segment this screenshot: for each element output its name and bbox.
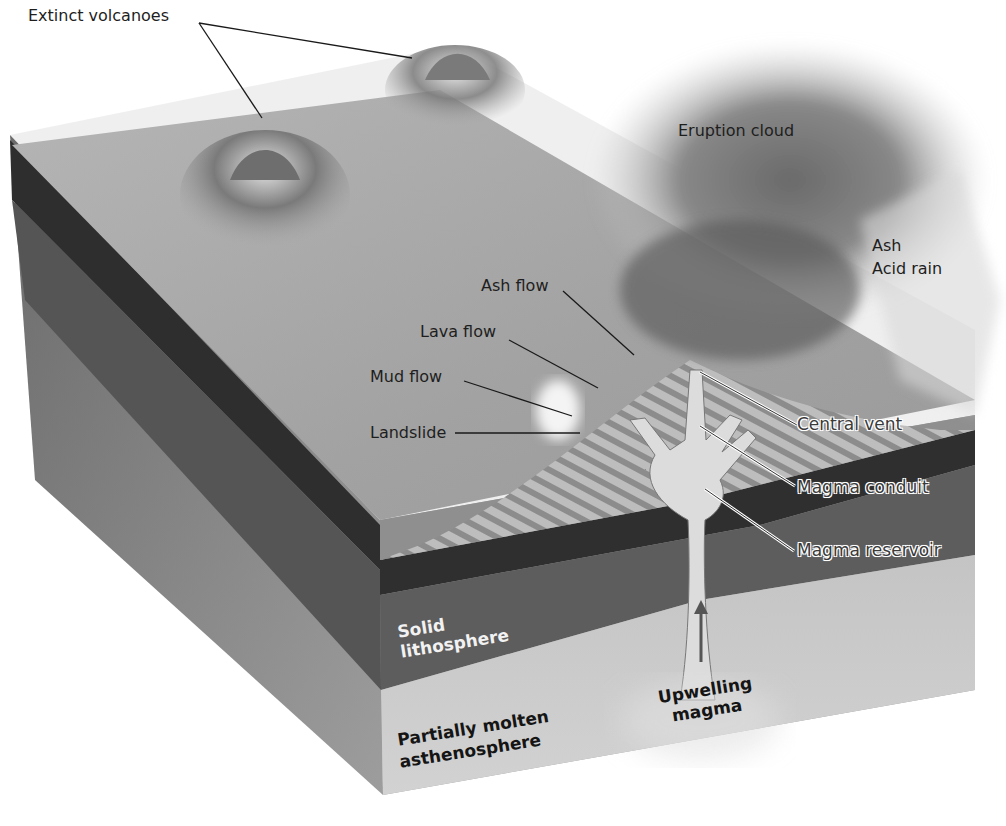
label-ash: Ash bbox=[872, 236, 901, 255]
label-mud-flow: Mud flow bbox=[370, 367, 442, 386]
label-ash-flow: Ash flow bbox=[481, 276, 548, 295]
extinct-volcano-1 bbox=[180, 130, 350, 260]
label-magma-conduit: Magma conduit bbox=[797, 478, 929, 497]
volcano-diagram: Extinct volcanoes Eruption cloud Ash Aci… bbox=[0, 0, 1006, 826]
eruption-cloud-core bbox=[620, 220, 860, 360]
label-central-vent: Central vent bbox=[797, 415, 902, 434]
block-diagram-graphic bbox=[0, 0, 1006, 826]
label-magma-reservoir: Magma reservoir bbox=[797, 541, 941, 560]
label-landslide: Landslide bbox=[370, 423, 446, 442]
label-extinct-volcanoes: Extinct volcanoes bbox=[28, 6, 169, 25]
label-lava-flow: Lava flow bbox=[420, 322, 496, 341]
label-eruption-cloud: Eruption cloud bbox=[678, 121, 794, 140]
landslide-puff bbox=[536, 380, 580, 440]
label-acid-rain: Acid rain bbox=[872, 259, 942, 278]
